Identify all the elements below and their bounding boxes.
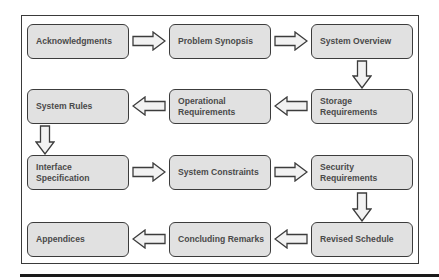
node-concluding-remarks: Concluding Remarks — [169, 222, 271, 257]
node-system-constraints: System Constraints — [169, 155, 271, 190]
node-label: Security Requirements — [320, 162, 377, 184]
node-storage-requirements: Storage Requirements — [311, 89, 413, 124]
arrow-down-icon — [35, 125, 55, 155]
arrow-right-icon — [274, 31, 308, 51]
node-acknowledgments: Acknowledgments — [27, 24, 129, 59]
node-label: System Constraints — [178, 167, 259, 178]
arrow-left-icon — [274, 96, 308, 116]
node-revised-schedule: Revised Schedule — [311, 222, 413, 257]
arrow-left-icon — [132, 229, 166, 249]
arrow-down-icon — [352, 192, 372, 222]
arrow-right-icon — [132, 162, 166, 182]
node-appendices: Appendices — [27, 222, 129, 257]
node-label: Storage Requirements — [320, 96, 377, 118]
node-system-overview: System Overview — [311, 24, 413, 59]
node-label: Problem Synopsis — [178, 36, 253, 47]
node-security-requirements: Security Requirements — [311, 155, 413, 190]
node-label: Appendices — [36, 234, 85, 245]
arrow-right-icon — [132, 31, 166, 51]
node-system-rules: System Rules — [27, 89, 129, 124]
node-interface-specification: Interface Specification — [27, 155, 129, 190]
node-label: Acknowledgments — [36, 36, 112, 47]
node-label: Concluding Remarks — [178, 234, 264, 245]
node-operational-requirements: Operational Requirements — [169, 89, 271, 124]
arrow-left-icon — [132, 96, 166, 116]
node-label: System Rules — [36, 101, 92, 112]
node-label: Revised Schedule — [320, 234, 394, 245]
bottom-rule — [20, 274, 439, 277]
arrow-right-icon — [274, 162, 308, 182]
arrow-left-icon — [274, 229, 308, 249]
node-label: Interface Specification — [36, 162, 89, 184]
node-problem-synopsis: Problem Synopsis — [169, 24, 271, 59]
node-label: Operational Requirements — [178, 96, 235, 118]
arrow-down-icon — [352, 60, 372, 89]
node-label: System Overview — [320, 36, 391, 47]
